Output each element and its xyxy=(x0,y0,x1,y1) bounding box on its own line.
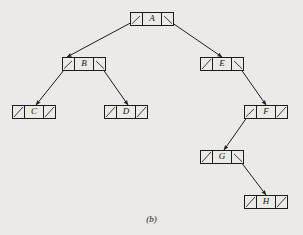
tree-node-h[interactable]: H xyxy=(244,195,288,209)
node-b-left-pointer-cell xyxy=(63,58,75,70)
tree-edge-a-e xyxy=(168,20,222,57)
node-g-right-pointer-cell xyxy=(231,151,243,163)
node-e-right-pointer-cell xyxy=(231,58,243,70)
node-d-left-null-cell xyxy=(105,106,117,118)
tree-edge-b-d xyxy=(100,65,128,105)
binary-tree-figure: A B C D E F G H (b) xyxy=(0,0,303,235)
tree-node-g[interactable]: G xyxy=(200,150,244,164)
node-d-label: D xyxy=(117,106,135,118)
node-e-left-null-cell xyxy=(201,58,213,70)
node-h-label: H xyxy=(257,196,275,208)
null-pointer-slash-icon xyxy=(201,58,212,70)
tree-node-b[interactable]: B xyxy=(62,57,106,71)
tree-edge-e-f xyxy=(238,65,266,105)
node-a-label: A xyxy=(143,13,161,25)
null-pointer-slash-icon xyxy=(13,106,24,118)
null-pointer-slash-icon xyxy=(44,106,55,118)
null-pointer-slash-icon xyxy=(245,196,256,208)
tree-node-c[interactable]: C xyxy=(12,105,56,119)
node-a-left-pointer-cell xyxy=(131,13,143,25)
node-c-left-null-cell xyxy=(13,106,25,118)
pointer-stub-icon xyxy=(232,58,243,70)
tree-node-f[interactable]: F xyxy=(244,105,288,119)
node-g-label: G xyxy=(213,151,231,163)
node-b-label: B xyxy=(75,58,93,70)
pointer-stub-icon xyxy=(232,151,243,163)
null-pointer-slash-icon xyxy=(276,196,287,208)
node-g-left-null-cell xyxy=(201,151,213,163)
null-pointer-slash-icon xyxy=(105,106,116,118)
tree-edge-a-b xyxy=(67,20,136,57)
node-a-right-pointer-cell xyxy=(161,13,173,25)
edge-group xyxy=(36,20,266,195)
node-b-right-pointer-cell xyxy=(93,58,105,70)
null-pointer-slash-icon xyxy=(276,106,287,118)
pointer-stub-icon xyxy=(63,58,74,70)
pointer-stub-icon xyxy=(94,58,105,70)
node-h-right-null-cell xyxy=(275,196,287,208)
null-pointer-slash-icon xyxy=(201,151,212,163)
null-pointer-slash-icon xyxy=(136,106,147,118)
node-f-left-pointer-cell xyxy=(245,106,257,118)
pointer-stub-icon xyxy=(245,106,256,118)
pointer-stub-icon xyxy=(131,13,142,25)
pointer-stub-icon xyxy=(162,13,173,25)
tree-node-a[interactable]: A xyxy=(130,12,174,26)
node-d-right-null-cell xyxy=(135,106,147,118)
node-c-right-null-cell xyxy=(43,106,55,118)
tree-edge-b-c xyxy=(36,65,68,105)
figure-caption: (b) xyxy=(0,214,303,224)
tree-node-d[interactable]: D xyxy=(104,105,148,119)
node-e-label: E xyxy=(213,58,231,70)
node-c-label: C xyxy=(25,106,43,118)
node-f-right-null-cell xyxy=(275,106,287,118)
tree-node-e[interactable]: E xyxy=(200,57,244,71)
node-f-label: F xyxy=(257,106,275,118)
node-h-left-null-cell xyxy=(245,196,257,208)
